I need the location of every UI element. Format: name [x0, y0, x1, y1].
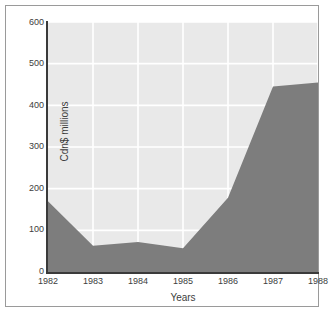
x-axis-title: Years [48, 292, 318, 303]
y-axis-tick-labels: 600 500 400 300 200 100 0 [6, 22, 44, 272]
y-axis-line [46, 21, 48, 273]
y-tick-label-0: 0 [10, 267, 44, 276]
x-tick-label-1983: 1983 [73, 276, 113, 286]
x-tick-label-1982: 1982 [28, 276, 68, 286]
y-tick-label-600: 600 [10, 18, 44, 27]
y-tick-label-300: 300 [10, 142, 44, 151]
plot-area [48, 22, 318, 272]
y-tick-label-400: 400 [10, 101, 44, 110]
x-tick-label-1987: 1987 [253, 276, 293, 286]
x-tick-label-1988: 1988 [298, 276, 333, 286]
y-tick-label-200: 200 [10, 184, 44, 193]
x-tick-label-1985: 1985 [163, 276, 203, 286]
x-tick-label-1984: 1984 [118, 276, 158, 286]
x-axis-tick-labels: 1982 1983 1984 1985 1986 1987 1988 [48, 276, 318, 290]
chart-frame: 600 500 400 300 200 100 0 Cdn$ millions … [5, 5, 319, 307]
plot-region: Cdn$ millions [48, 22, 318, 272]
area-chart-svg [48, 22, 318, 272]
y-tick-label-100: 100 [10, 225, 44, 234]
x-tick-label-1986: 1986 [208, 276, 248, 286]
y-axis-title: Cdn$ millions [59, 72, 70, 192]
x-axis-line [46, 272, 319, 274]
y-tick-label-500: 500 [10, 59, 44, 68]
